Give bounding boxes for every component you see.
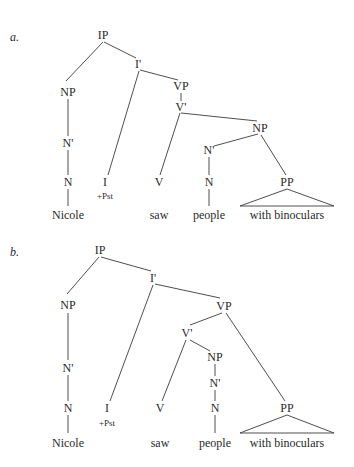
tree-a-node-v: V: [155, 176, 164, 188]
branch-line: [101, 257, 151, 271]
tree-b-node-np2: NP: [207, 351, 222, 363]
branch-line: [110, 285, 153, 401]
tree-a-node-w2: saw: [150, 209, 169, 221]
syntax-tree-figure: a.IPNPN'NNicoleI'I+PstVPV'VsawNPN'Npeopl…: [0, 0, 354, 467]
tree-a-node-w3: people: [193, 209, 225, 221]
branch-line: [190, 313, 222, 325]
branch-line: [66, 42, 103, 81]
branch-line: [67, 257, 99, 294]
branch-line: [155, 284, 220, 298]
tree-b-node-w3: people: [199, 437, 231, 449]
tree-a-node-nb1: N': [63, 137, 74, 149]
tree-branches: [0, 0, 354, 467]
tree-a-node-np1: NP: [60, 86, 75, 98]
tree-b-letter: b.: [10, 246, 19, 258]
tree-b-node-pp: PP: [280, 402, 293, 414]
branch-line: [160, 113, 180, 175]
tree-a-node-np2: NP: [252, 122, 267, 134]
tree-b-node-pst: +Pst: [99, 419, 115, 428]
tree-a-node-ip: IP: [98, 29, 109, 41]
tree-a-letter: a.: [10, 31, 19, 43]
tree-b-node-nb1: N': [63, 362, 74, 374]
tree-b-node-v: V: [156, 402, 165, 414]
tree-a-node-n1: N: [64, 176, 73, 188]
branch-line: [214, 134, 258, 146]
tree-b-node-w1: Nicole: [52, 437, 84, 449]
tree-b-node-nb2: N': [210, 377, 221, 389]
tree-a-node-vp: VP: [173, 80, 188, 92]
tree-b-node-n1: N: [64, 402, 73, 414]
tree-b-node-ip: IP: [95, 244, 106, 256]
tree-b-node-n2: N: [211, 402, 220, 414]
tree-b-node-w4: with binoculars: [250, 437, 324, 449]
tree-a-node-i: I: [103, 176, 107, 188]
tree-a-node-w4: with binoculars: [250, 209, 324, 221]
tree-b-node-i: I: [105, 402, 109, 414]
tree-b-node-np1: NP: [60, 299, 75, 311]
branch-line: [140, 70, 178, 80]
branch-line: [181, 113, 257, 121]
branch-line: [104, 42, 136, 58]
tree-a-node-nb2: N': [204, 144, 215, 156]
branch-line: [226, 313, 285, 401]
tree-a-node-w1: Nicole: [52, 209, 84, 221]
tree-b-node-w2: saw: [151, 437, 170, 449]
tree-a-node-ib: I': [135, 58, 141, 70]
tree-a-node-pp: PP: [280, 176, 293, 188]
tree-a-node-pst: +Pst: [97, 192, 113, 201]
triangle-abbreviation: [240, 415, 334, 433]
branch-line: [261, 135, 286, 175]
branch-line: [108, 71, 139, 175]
tree-b-node-ib: I': [150, 272, 156, 284]
tree-a-node-vb: V': [176, 101, 187, 113]
branch-line: [162, 340, 186, 401]
triangle-abbreviation: [240, 189, 334, 206]
tree-b-node-vp: VP: [216, 300, 231, 312]
tree-a-node-n2: N: [205, 176, 214, 188]
tree-b-node-vb: V': [182, 327, 193, 339]
